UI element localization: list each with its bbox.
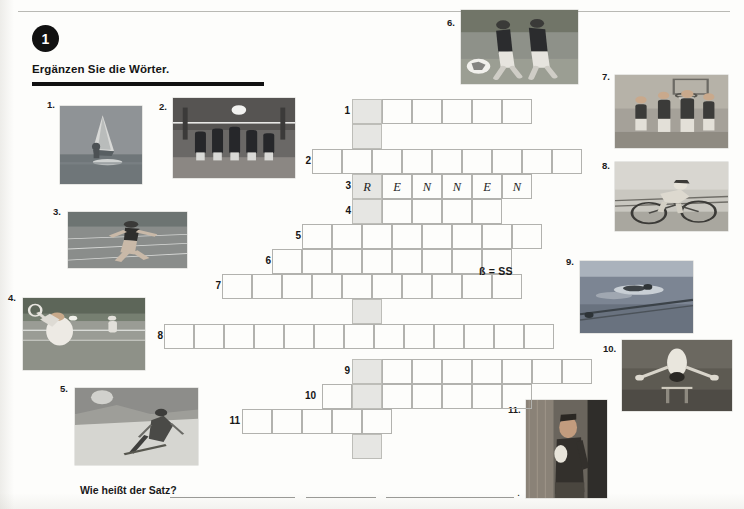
crossword-cell-letter	[333, 410, 361, 433]
crossword-cell-r5-c7[interactable]	[482, 224, 512, 249]
crossword-cell-r8-c13[interactable]	[524, 324, 554, 349]
crossword-cell-r8-c3[interactable]	[224, 324, 254, 349]
crossword-cell-r2-c1[interactable]	[312, 149, 342, 174]
crossword-cell-r5-c6[interactable]	[452, 224, 482, 249]
crossword-cell-r11-c4[interactable]	[332, 409, 362, 434]
crossword-cell-r7-c4[interactable]	[312, 274, 342, 299]
crossword-cell-r1-c2[interactable]	[382, 99, 412, 124]
crossword-cell-r3-c5[interactable]: E	[472, 174, 502, 199]
crossword-cell-r2-c5[interactable]	[432, 149, 462, 174]
crossword-cell-r1-c5[interactable]	[472, 99, 502, 124]
crossword-cell-r2-c4[interactable]	[402, 149, 432, 174]
crossword-cell-r10-c6[interactable]	[472, 384, 502, 409]
crossword-cell-r8-c2[interactable]	[194, 324, 224, 349]
crossword-cell-letter	[525, 325, 553, 348]
crossword-cell-r3-c4[interactable]: N	[442, 174, 472, 199]
crossword-cell-r8-c5[interactable]	[284, 324, 314, 349]
crossword-cell-r8-c10[interactable]	[434, 324, 464, 349]
crossword-cell-r2-c6[interactable]	[462, 149, 492, 174]
crossword-cell-r5-c4[interactable]	[392, 224, 422, 249]
crossword-cell-r8-c1[interactable]	[164, 324, 194, 349]
crossword-cell-r11-c1[interactable]	[242, 409, 272, 434]
crossword-cell-r8-c7[interactable]	[344, 324, 374, 349]
crossword-cell-r5-c3[interactable]	[362, 224, 392, 249]
crossword-cell-r5-c2[interactable]	[332, 224, 362, 249]
crossword-row-number-10: 10	[300, 390, 316, 401]
crossword-cell-r1-c4[interactable]	[442, 99, 472, 124]
crossword-cell-r10-c7[interactable]	[502, 384, 532, 409]
crossword-cell-r1-c1[interactable]	[352, 99, 382, 124]
crossword-cell-r7-c1[interactable]	[222, 274, 252, 299]
photo-image-running	[68, 212, 187, 268]
crossword-cell-r5-c1[interactable]	[302, 224, 332, 249]
crossword-cell-r4-c5[interactable]	[472, 199, 502, 224]
crossword-cell-r8-c11[interactable]	[464, 324, 494, 349]
crossword-highlight-cell[interactable]	[352, 299, 382, 324]
crossword-cell-r9-c2[interactable]	[382, 359, 412, 384]
answer-blank-line-2[interactable]	[306, 497, 376, 498]
crossword-cell-r7-c5[interactable]	[342, 274, 372, 299]
crossword-cell-r11-c3[interactable]	[302, 409, 332, 434]
crossword-cell-r4-c1[interactable]	[352, 199, 382, 224]
crossword-cell-r6-c5[interactable]	[392, 249, 422, 274]
crossword-cell-r9-c5[interactable]	[472, 359, 502, 384]
crossword-cell-r6-c1[interactable]	[272, 249, 302, 274]
crossword-cell-r10-c4[interactable]	[412, 384, 442, 409]
crossword-cell-r8-c9[interactable]	[404, 324, 434, 349]
crossword-cell-r7-c6[interactable]	[372, 274, 402, 299]
crossword-cell-r11-c2[interactable]	[272, 409, 302, 434]
answer-blank-line-1[interactable]	[170, 497, 295, 498]
crossword-cell-r9-c7[interactable]	[532, 359, 562, 384]
crossword-cell-r11-c5[interactable]	[362, 409, 392, 434]
crossword-highlight-cell[interactable]	[352, 434, 382, 459]
crossword-cell-r6-c6[interactable]	[422, 249, 452, 274]
crossword-cell-r8-c8[interactable]	[374, 324, 404, 349]
answer-blank-line-3[interactable]	[386, 497, 514, 498]
crossword-highlight-cell[interactable]	[352, 124, 382, 149]
crossword-cell-r1-c6[interactable]	[502, 99, 532, 124]
crossword-cell-letter	[363, 225, 391, 248]
crossword-cell-r3-c6[interactable]: N	[502, 174, 532, 199]
crossword-cell-r8-c6[interactable]	[314, 324, 344, 349]
crossword-cell-r2-c8[interactable]	[522, 149, 552, 174]
crossword-cell-r5-c8[interactable]	[512, 224, 542, 249]
crossword-cell-r7-c10[interactable]	[492, 274, 522, 299]
crossword-cell-r10-c2[interactable]	[352, 384, 382, 409]
crossword-cell-r4-c4[interactable]	[442, 199, 472, 224]
crossword-cell-r2-c2[interactable]	[342, 149, 372, 174]
crossword-cell-r7-c2[interactable]	[252, 274, 282, 299]
crossword-cell-r4-c3[interactable]	[412, 199, 442, 224]
crossword-cell-letter: E	[473, 175, 501, 198]
crossword-cell-r6-c4[interactable]	[362, 249, 392, 274]
crossword-cell-r9-c3[interactable]	[412, 359, 442, 384]
crossword-cell-r1-c3[interactable]	[412, 99, 442, 124]
crossword-cell-r3-c2[interactable]: E	[382, 174, 412, 199]
crossword-cell-r7-c7[interactable]	[402, 274, 432, 299]
crossword-cell-r5-c5[interactable]	[422, 224, 452, 249]
crossword-cell-r7-c8[interactable]	[432, 274, 462, 299]
crossword-cell-r10-c3[interactable]	[382, 384, 412, 409]
crossword-cell-r7-c3[interactable]	[282, 274, 312, 299]
crossword-cell-r3-c1[interactable]: R	[352, 174, 382, 199]
crossword-cell-letter: N	[443, 175, 471, 198]
crossword-cell-r2-c3[interactable]	[372, 149, 402, 174]
crossword-cell-r3-c3[interactable]: N	[412, 174, 442, 199]
crossword-cell-r9-c1[interactable]	[352, 359, 382, 384]
crossword-cell-r7-c9[interactable]	[462, 274, 492, 299]
crossword-cell-letter	[223, 275, 251, 298]
crossword-cell-r2-c7[interactable]	[492, 149, 522, 174]
crossword-cell-r6-c2[interactable]	[302, 249, 332, 274]
crossword-cell-r6-c7[interactable]	[452, 249, 482, 274]
crossword-row-number-8: 8	[147, 330, 163, 341]
crossword-cell-r9-c6[interactable]	[502, 359, 532, 384]
crossword-cell-r9-c8[interactable]	[562, 359, 592, 384]
crossword-cell-r10-c5[interactable]	[442, 384, 472, 409]
crossword-cell-r2-c9[interactable]	[552, 149, 582, 174]
crossword-cell-r4-c2[interactable]	[382, 199, 412, 224]
crossword-cell-r8-c4[interactable]	[254, 324, 284, 349]
crossword-cell-letter	[343, 275, 371, 298]
crossword-cell-r6-c3[interactable]	[332, 249, 362, 274]
crossword-cell-r8-c12[interactable]	[494, 324, 524, 349]
crossword-cell-r9-c4[interactable]	[442, 359, 472, 384]
crossword-cell-r10-c1[interactable]	[322, 384, 352, 409]
